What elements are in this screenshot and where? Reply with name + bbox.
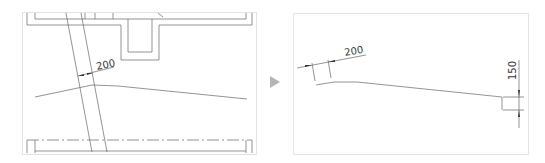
profile-line <box>316 82 502 110</box>
dimension-label-before: 200 <box>95 57 116 72</box>
path-line <box>35 85 247 99</box>
before-drawing <box>27 13 252 153</box>
top-wall <box>27 13 252 60</box>
bottom-wall <box>27 140 252 153</box>
dimension-200-after <box>297 55 366 81</box>
after-drawing <box>297 55 524 128</box>
play-arrow-icon <box>270 76 280 88</box>
slanted-wall <box>66 13 107 152</box>
dimension-label-after-height: 150 <box>507 61 518 80</box>
